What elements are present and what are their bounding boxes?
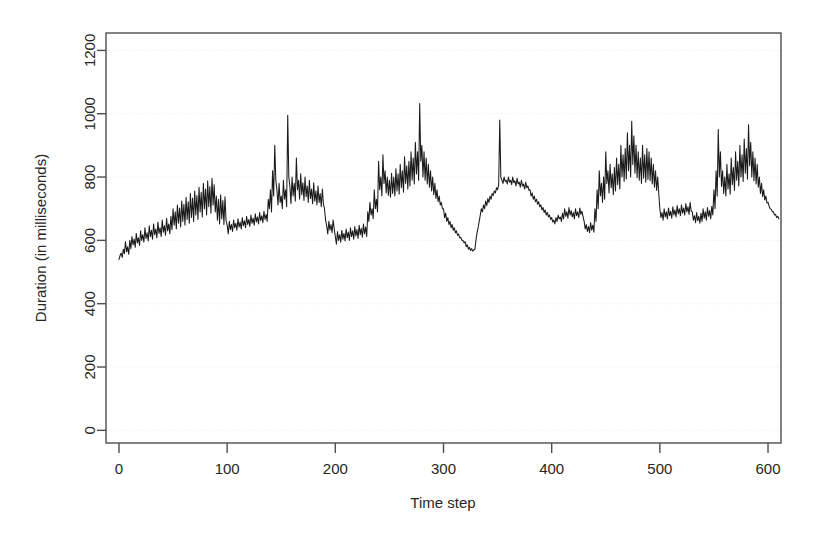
y-tick-label-1200: 1200 [82,34,99,67]
y-axis-title: Duration (in milliseconds) [32,154,49,322]
x-tick-label-0: 0 [115,460,123,477]
x-tick-label-400: 400 [539,460,564,477]
y-tick-label-200: 200 [82,354,99,379]
x-axis-title: Time step [410,494,475,511]
x-tick-label-200: 200 [323,460,348,477]
x-tick-label-500: 500 [647,460,672,477]
y-tick-label-800: 800 [82,165,99,190]
duration-time-series-figure: 020040060080010001200 010020030040050060… [0,0,816,536]
y-tick-label-1000: 1000 [82,97,99,130]
x-tick-label-600: 600 [756,460,781,477]
x-tick-label-100: 100 [215,460,240,477]
y-tick-label-600: 600 [82,228,99,253]
y-tick-label-400: 400 [82,291,99,316]
figure-background [0,0,816,536]
x-tick-label-300: 300 [431,460,456,477]
y-tick-label-0: 0 [82,426,99,434]
